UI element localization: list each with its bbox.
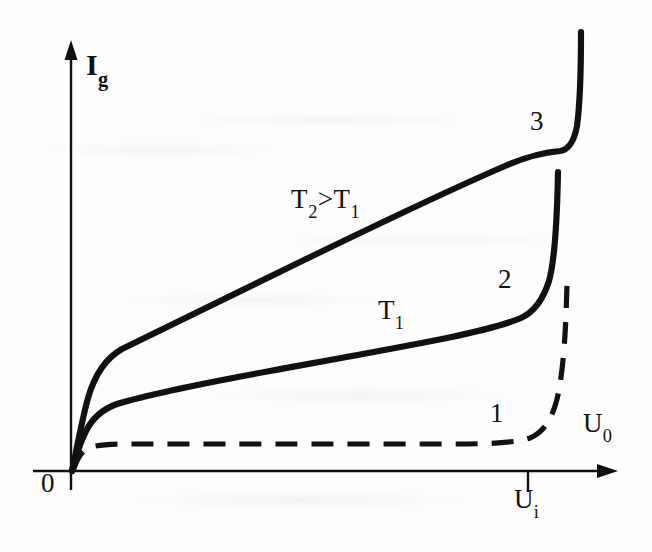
curve-3-path	[72, 32, 581, 471]
x-tick-label-main: U	[514, 484, 534, 514]
y-axis-label-main: I	[86, 48, 98, 81]
x-axis-label-main: U	[583, 408, 603, 438]
x-tick-label-ui: Ui	[514, 486, 539, 518]
y-axis-label-subscript: g	[98, 68, 108, 90]
origin-label: 0	[41, 470, 55, 497]
x-axis	[33, 464, 618, 478]
annotation-temperature-comparison: T2>T1	[291, 186, 360, 218]
curve-label-1: 1	[490, 400, 504, 427]
annotation-t2-main: T	[291, 184, 308, 214]
annotation-temp-single-subscript: 1	[395, 313, 404, 333]
curve-label-3: 3	[530, 108, 544, 135]
curve-label-2: 2	[498, 266, 512, 293]
y-axis-label: Ig	[86, 50, 108, 85]
annotation-temperature-t1: T1	[378, 297, 404, 329]
y-axis	[65, 40, 78, 490]
x-axis-label-subscript: 0	[603, 426, 612, 446]
annotation-t2-subscript: 2	[308, 202, 318, 222]
x-axis-label: U0	[583, 410, 612, 442]
annotation-t1-main: T	[333, 184, 350, 214]
curve-1-path	[73, 284, 567, 471]
annotation-temp-single-main: T	[378, 295, 395, 325]
annotation-t1-subscript: 1	[351, 202, 361, 222]
x-tick-label-subscript: i	[534, 502, 539, 522]
annotation-greater-than: >	[318, 184, 334, 214]
figure-page: Ig U0 0 Ui T2>T1 T1 3 2 1	[0, 0, 652, 552]
